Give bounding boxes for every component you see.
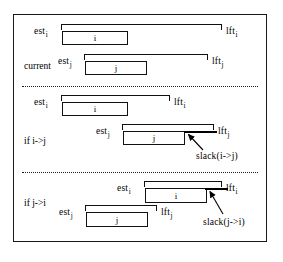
- slack-label-i-to-j: slack(i->j): [196, 152, 238, 162]
- activity-box-ij-i: i: [62, 102, 128, 116]
- section-label-if-j-to-i: if j->i: [24, 199, 46, 209]
- activity-box-label: i: [146, 191, 206, 200]
- label-lft-current-j: lftj: [212, 57, 224, 69]
- activity-box-ij-j: j: [123, 131, 185, 145]
- label-lft-ij-i: lfti: [174, 98, 186, 110]
- figure-root: current esti lfti i estj lftj j if i->j …: [0, 0, 283, 262]
- separator-2: [22, 172, 258, 173]
- activity-box-label: j: [87, 215, 147, 224]
- bracket-ij-i: [61, 95, 170, 101]
- bracket-current-i: [61, 24, 222, 30]
- label-est-ij-j: estj: [96, 127, 110, 139]
- slack-bar-i-to-j: [184, 131, 217, 133]
- activity-box-ji-i: i: [145, 188, 207, 203]
- activity-box-current-j: j: [85, 61, 147, 75]
- activity-box-label: i: [63, 105, 127, 114]
- separator-1: [22, 86, 258, 87]
- bracket-ji-j: [85, 205, 157, 211]
- bracket-ji-i: [144, 181, 222, 187]
- bracket-ij-j: [122, 124, 214, 130]
- label-est-current-j: estj: [58, 57, 72, 69]
- bracket-current-j: [84, 54, 208, 60]
- activity-box-label: j: [86, 64, 146, 73]
- activity-box-label: j: [124, 134, 184, 143]
- section-label-current: current: [24, 62, 51, 72]
- label-est-current-i: esti: [34, 27, 48, 39]
- slack-label-j-to-i: slack(j->i): [203, 218, 245, 228]
- label-est-ij-i: esti: [34, 98, 48, 110]
- activity-box-ji-j: j: [86, 212, 148, 227]
- label-lft-ji-j: lftj: [161, 208, 173, 220]
- label-lft-ij-j: lftj: [218, 127, 230, 139]
- label-est-ji-j: estj: [59, 208, 73, 220]
- label-est-ji-i: esti: [117, 184, 131, 196]
- activity-box-current-i: i: [62, 31, 128, 45]
- activity-box-label: i: [63, 34, 127, 43]
- label-lft-current-i: lfti: [226, 27, 238, 39]
- slack-bar-j-to-i: [205, 188, 228, 190]
- section-label-if-i-to-j: if i->j: [24, 137, 46, 147]
